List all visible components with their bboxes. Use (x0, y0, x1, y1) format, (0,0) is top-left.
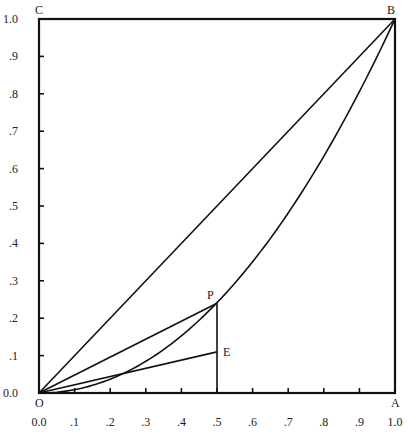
y-tick-label: .8 (9, 87, 18, 101)
x-tick-label: 1.0 (388, 415, 403, 429)
y-tick-label: .1 (9, 349, 18, 363)
y-tick-label: .7 (9, 124, 18, 138)
y-tick-label: .3 (9, 274, 18, 288)
line-OE (39, 352, 217, 393)
x-tick-label: .3 (141, 415, 150, 429)
x-tick-label: 0.0 (32, 415, 47, 429)
chord-OP (39, 303, 217, 393)
y-tick-label: 0.0 (3, 386, 18, 400)
y-tick-label: 1.0 (3, 12, 18, 26)
y-tick-label: .9 (9, 49, 18, 63)
point-label-E: E (223, 345, 230, 359)
x-axis-labels: 0.0.1.2.3.4.5.6.7.8.91.0 (32, 415, 403, 429)
y-axis-labels: 0.0.1.2.3.4.5.6.7.8.91.0 (3, 12, 18, 400)
point-label-A: A (391, 396, 400, 410)
x-tick-label: .8 (319, 415, 328, 429)
x-tick-label: .5 (213, 415, 222, 429)
y-tick-label: .6 (9, 162, 18, 176)
point-label-C: C (35, 3, 43, 17)
lorenz-diagram: 0.0.1.2.3.4.5.6.7.8.91.0 0.0.1.2.3.4.5.6… (0, 0, 409, 444)
y-tick-label: .5 (9, 199, 18, 213)
point-label-B: B (387, 3, 395, 17)
x-tick-label: .2 (106, 415, 115, 429)
x-tick-label: .4 (177, 415, 186, 429)
y-tick-label: .4 (9, 236, 18, 250)
x-tick-label: .6 (248, 415, 257, 429)
x-tick-label: .7 (284, 415, 293, 429)
x-tick-label: .1 (70, 415, 79, 429)
x-tick-label: .9 (355, 415, 364, 429)
point-label-P: P (207, 288, 214, 302)
diagram-lines (39, 19, 395, 393)
point-label-O: O (35, 396, 44, 410)
y-tick-label: .2 (9, 311, 18, 325)
